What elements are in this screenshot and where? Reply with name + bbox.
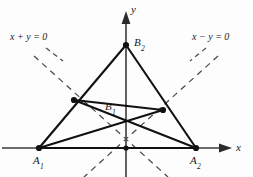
point-label-B1: B1 bbox=[105, 101, 115, 115]
point-label-B2-base: B bbox=[134, 36, 141, 48]
point-label-B2-sub: 2 bbox=[141, 44, 145, 53]
left-equation-text: x + y = 0 bbox=[10, 31, 47, 42]
left-equation-label: x + y = 0 bbox=[10, 32, 47, 42]
geometry-figure: x y x + y = 0 x − y = 0 A1 A2 B2 B1 bbox=[0, 0, 253, 177]
left-equation-leader bbox=[46, 48, 63, 61]
vertex-dots-group bbox=[36, 42, 199, 151]
point-label-A2: A2 bbox=[190, 155, 200, 169]
point-dot-B2 bbox=[123, 42, 129, 48]
y-axis-arrowhead bbox=[122, 11, 131, 24]
x-axis-label: x bbox=[236, 142, 241, 153]
segment-a1-b2 bbox=[39, 45, 126, 148]
point-label-B1-sub: 1 bbox=[112, 108, 116, 117]
right-equation-label: x − y = 0 bbox=[192, 32, 229, 42]
point-dot-M2 bbox=[160, 107, 166, 113]
right-equation-text: x − y = 0 bbox=[192, 31, 229, 42]
y-axis-label: y bbox=[131, 4, 136, 15]
segment-b2-a2 bbox=[126, 45, 196, 148]
right-equation-leader bbox=[190, 48, 206, 61]
point-label-A1: A1 bbox=[33, 155, 43, 169]
point-dot-A1 bbox=[36, 145, 42, 151]
point-dot-A2 bbox=[193, 145, 199, 151]
point-dot-M1 bbox=[71, 97, 77, 103]
point-label-A1-base: A bbox=[33, 154, 40, 166]
point-label-A1-sub: 1 bbox=[40, 162, 44, 171]
figure-canvas bbox=[0, 0, 253, 177]
point-label-A2-base: A bbox=[190, 154, 197, 166]
point-label-B1-base: B bbox=[105, 100, 112, 112]
point-label-B2: B2 bbox=[134, 37, 144, 51]
x-axis-arrowhead bbox=[219, 144, 232, 153]
point-label-A2-sub: 2 bbox=[197, 162, 201, 171]
point-dot-origin bbox=[123, 145, 128, 150]
